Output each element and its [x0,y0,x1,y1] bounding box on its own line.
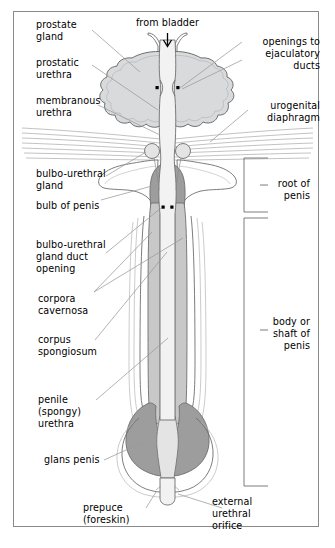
bracket-label-body-or-shaft-of-penis: body or shaft of penis [206,316,310,353]
label-prostatic-urethra: prostatic urethra [36,57,118,81]
label-urogenital-diaphragm: urogenital diaphragm [240,100,320,124]
label-bulb-of-penis: bulb of penis [36,200,126,212]
label-membranous-urethra: membranous urethra [36,95,122,119]
bracket-label-root-of-penis: root of penis [206,178,310,202]
label-penile-spongy-urethra: penile (spongy) urethra [38,394,108,431]
anatomical-diagram-figure: from bladder prostate gland prostatic ur… [0,0,335,548]
label-bulbo-urethral-gland-duct-opening: bulbo-urethral gland duct opening [36,239,126,276]
label-glans-penis: glans penis [44,454,126,466]
label-openings-to-ejaculatory-ducts: openings to ejaculatory ducts [240,36,320,73]
label-bulbo-urethral-gland: bulbo-urethral gland [36,168,122,192]
label-corpus-spongiosum: corpus spongiosum [38,334,124,358]
label-external-urethral-orifice: external urethral orifice [212,496,288,533]
label-prostate-gland: prostate gland [36,19,118,43]
label-from-bladder: from bladder [111,17,224,29]
label-corpora-cavernosa: corpora cavernosa [38,293,120,317]
label-prepuce-foreskin: prepuce (foreskin) [83,502,155,526]
